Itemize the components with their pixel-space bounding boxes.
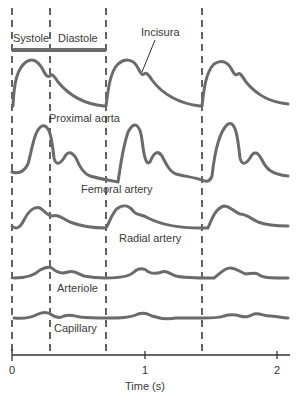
x-axis-label: Time (s) (125, 381, 165, 392)
capillary-label: Capillary (54, 323, 97, 334)
systole-label: Systole (13, 33, 49, 44)
radial-artery-label: Radial artery (119, 233, 181, 244)
incisura-label: Incisura (141, 27, 180, 38)
incisura-pointer (142, 40, 155, 72)
arteriole-label: Arteriole (57, 283, 98, 294)
tick-label-2: 2 (274, 365, 280, 376)
x-axis (12, 349, 290, 361)
waveform-proximal-aorta (13, 60, 288, 106)
proximal-aorta-label: Proximal aorta (49, 113, 120, 124)
diastole-label: Diastole (58, 33, 98, 44)
waveform-femoral-artery (12, 123, 288, 182)
phase-bar (12, 48, 106, 52)
waveform-radial-artery (12, 206, 288, 228)
tick-label-0: 0 (9, 365, 15, 376)
waveform-arteriole (14, 267, 288, 278)
pressure-waveform-diagram: Systole Diastole Incisura Proximal aorta… (0, 0, 308, 397)
waveform-capillary (14, 313, 288, 319)
cycle-marker-lines (12, 8, 202, 355)
tick-label-1: 1 (142, 365, 148, 376)
femoral-artery-label: Femoral artery (81, 184, 153, 195)
diagram-canvas (0, 0, 308, 397)
